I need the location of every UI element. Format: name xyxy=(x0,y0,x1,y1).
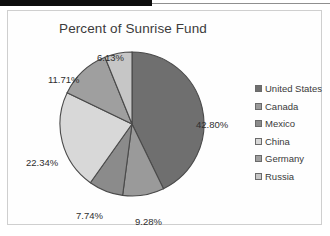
legend-item-label: Germany xyxy=(265,153,304,164)
pie-slices xyxy=(60,52,204,196)
chart-frame: Percent of Sunrise Fund 42.80%9.28%7.74%… xyxy=(7,10,322,225)
legend-swatch-icon xyxy=(255,173,262,180)
legend-item-label: Russia xyxy=(265,171,294,182)
legend: United StatesCanadaMexicoChinaGermanyRus… xyxy=(255,83,322,182)
legend-swatch-icon xyxy=(255,85,262,92)
page-bottom-margin xyxy=(0,226,330,236)
slice-percent-label: 6.13% xyxy=(97,52,124,63)
legend-swatch-icon xyxy=(255,103,262,110)
legend-item-mexico[interactable]: Mexico xyxy=(255,118,322,129)
legend-item-germany[interactable]: Germany xyxy=(255,153,322,164)
legend-item-label: United States xyxy=(265,83,322,94)
legend-swatch-icon xyxy=(255,138,262,145)
slice-percent-label: 42.80% xyxy=(196,119,228,130)
legend-item-label: Canada xyxy=(265,101,298,112)
pie-chart-svg xyxy=(58,49,206,199)
legend-item-label: Mexico xyxy=(265,118,295,129)
pie-plot-area: 42.80%9.28%7.74%22.34%11.71%6.13% xyxy=(8,11,253,224)
slice-percent-label: 11.71% xyxy=(48,74,80,85)
legend-swatch-icon xyxy=(255,120,262,127)
slice-percent-label: 7.74% xyxy=(76,210,103,221)
scan-artifact-bar xyxy=(0,0,152,6)
scan-artifact-line xyxy=(152,3,330,4)
slice-percent-label: 22.34% xyxy=(26,157,58,168)
legend-item-label: China xyxy=(265,136,290,147)
legend-swatch-icon xyxy=(255,155,262,162)
legend-item-china[interactable]: China xyxy=(255,136,322,147)
legend-item-united-states[interactable]: United States xyxy=(255,83,322,94)
legend-item-canada[interactable]: Canada xyxy=(255,101,322,112)
legend-item-russia[interactable]: Russia xyxy=(255,171,322,182)
